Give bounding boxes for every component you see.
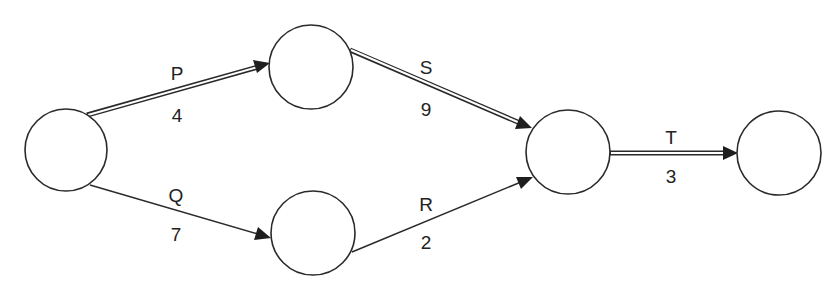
arrowhead-icon: [253, 60, 270, 73]
arrowhead-icon: [516, 177, 533, 189]
edge-label-q: Q: [169, 186, 184, 205]
node-after-p: [269, 25, 353, 109]
edge-r: [352, 177, 533, 252]
edge-duration-s: 9: [421, 100, 432, 119]
edge-s: [350, 50, 532, 129]
network-diagram: [0, 0, 834, 289]
arrowhead-icon: [254, 227, 271, 240]
edge-label-r: R: [419, 195, 433, 214]
node-after-q: [271, 191, 355, 275]
edge-label-p: P: [171, 64, 184, 83]
edge-duration-r: 2: [421, 233, 432, 252]
edge-t: [610, 146, 738, 160]
node-start: [25, 109, 107, 191]
edge-duration-q: 7: [171, 225, 182, 244]
edge-label-t: T: [665, 128, 677, 147]
node-end: [737, 111, 821, 195]
node-merge: [526, 110, 610, 194]
edge-label-s: S: [420, 58, 433, 77]
edge-duration-t: 3: [666, 167, 677, 186]
arrowhead-icon: [515, 116, 532, 129]
edge-duration-p: 4: [172, 106, 183, 125]
arrowhead-icon: [723, 146, 738, 160]
